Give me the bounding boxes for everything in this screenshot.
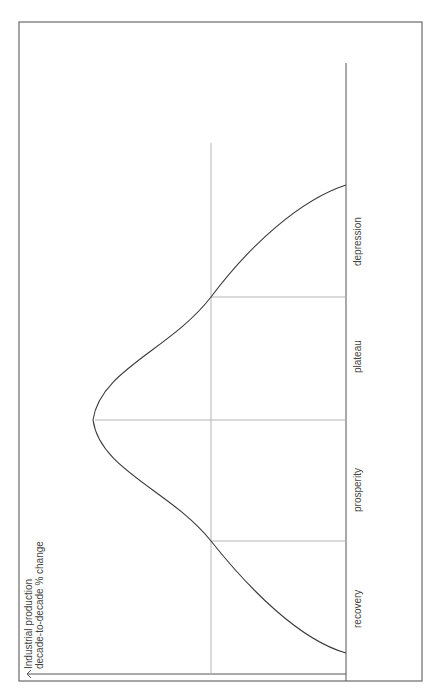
phase-label-recovery: recovery	[352, 590, 363, 628]
business-cycle-chart: recovery prosperity plateau depression I…	[0, 0, 442, 699]
phase-label-depression: depression	[352, 217, 363, 266]
production-curve	[93, 185, 346, 653]
y-axis-label-line1: Industrial production	[23, 579, 34, 669]
phase-label-plateau: plateau	[352, 340, 363, 373]
phase-label-prosperity: prosperity	[352, 468, 363, 512]
y-axis-label-line2: decade-to-decade % change	[34, 541, 45, 669]
